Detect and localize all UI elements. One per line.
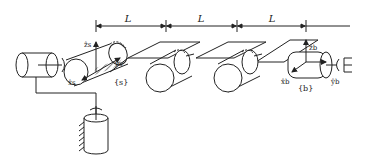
xs-axis-label: x̂s — [68, 79, 76, 87]
body-frame-label: {b} — [298, 84, 313, 93]
connector-line — [36, 77, 96, 115]
space-frame-label: {s} — [114, 78, 128, 87]
ys-axis-label: ŷs — [114, 60, 123, 68]
robot-arm-diagram: L L L ẑs ŷs x̂s {s} ẑb x̂b ŷb {b} — [0, 0, 368, 160]
ground-hatch-marks — [79, 122, 84, 151]
yb-axis-label: ŷb — [330, 78, 340, 86]
end-effector-cylinder — [288, 52, 332, 78]
dimension-label-3: L — [268, 13, 276, 24]
dimension-label-1: L — [124, 13, 132, 24]
dimension-lines — [96, 20, 350, 32]
ground-support — [79, 106, 108, 154]
dimension-label-2: L — [197, 13, 205, 24]
base-cylinder — [16, 53, 65, 77]
xb-axis-label: x̂b — [281, 78, 290, 86]
zs-axis-label: ẑs — [84, 41, 92, 49]
zb-axis-label: ẑb — [309, 44, 318, 52]
joint-2-cylinder — [146, 50, 194, 92]
